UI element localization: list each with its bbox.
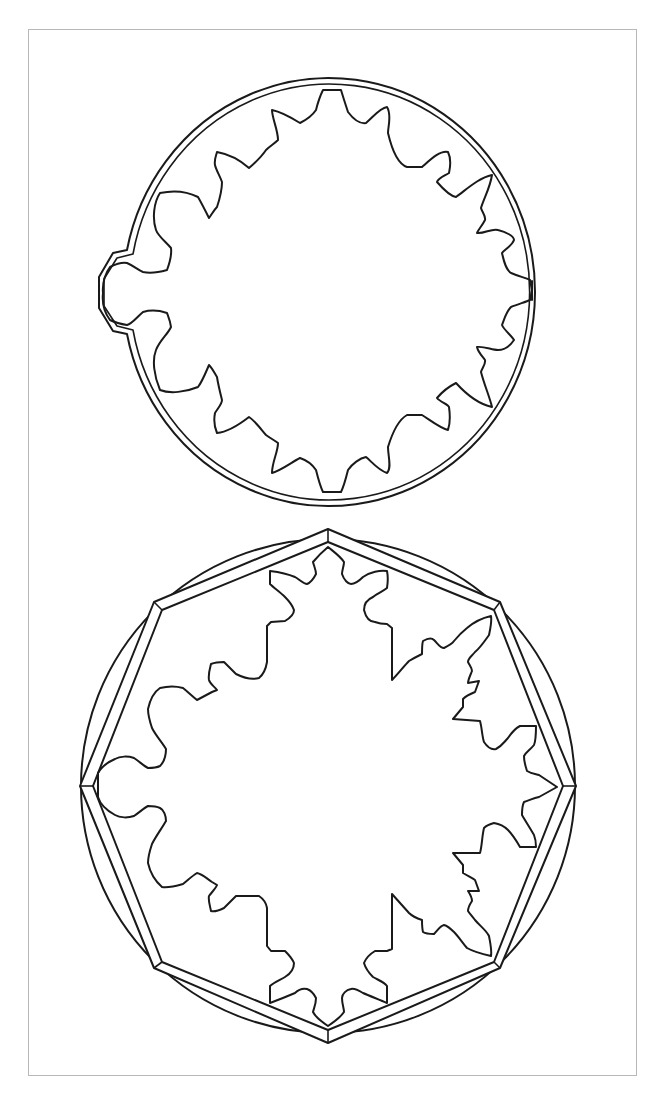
- line-drawing: [0, 0, 659, 1097]
- inner-ellipse-outline: [104, 84, 530, 500]
- outer-octagon: [80, 529, 576, 1043]
- ornamental-octagon: [80, 529, 576, 1043]
- ornamental-ellipse: [99, 78, 535, 506]
- scalloped-cutout: [103, 90, 532, 492]
